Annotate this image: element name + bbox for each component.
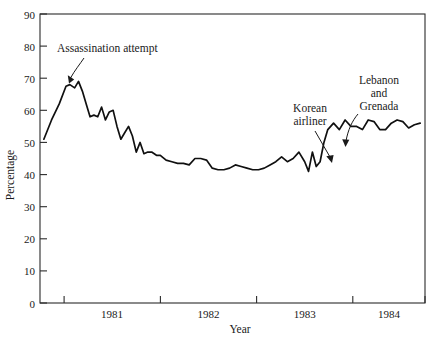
y-tick-label-40: 40: [24, 169, 36, 181]
y-tick-label-90: 90: [24, 9, 36, 21]
annotation-korean-line1: Korean: [293, 102, 327, 114]
plot-frame: [40, 14, 425, 303]
chart-figure: 90 80 70 60 50 40 30 20 10 0 1981 1982 1…: [0, 0, 438, 344]
y-axis-tick-labels: 90 80 70 60 50 40 30 20 10 0: [24, 9, 36, 310]
approval-rating-line-chart: 90 80 70 60 50 40 30 20 10 0 1981 1982 1…: [0, 0, 438, 344]
korean-airliner-arrowhead: [326, 155, 333, 163]
lebanon-grenada-arrowhead: [342, 139, 349, 147]
x-axis-title: Year: [229, 323, 250, 335]
annotation-korean-line2: airliner: [293, 115, 326, 127]
x-tick-label-1984: 1984: [378, 308, 401, 320]
x-axis-ticks: [64, 296, 425, 303]
y-tick-label-50: 50: [24, 137, 36, 149]
x-tick-label-1983: 1983: [294, 308, 317, 320]
y-tick-label-70: 70: [24, 73, 36, 85]
x-axis-tick-labels: 1981 1982 1983 1984: [101, 308, 401, 320]
annotation-lebanon-line1: Lebanon: [359, 74, 399, 86]
y-tick-label-20: 20: [24, 233, 36, 245]
y-tick-label-60: 60: [24, 105, 36, 117]
annotation-lebanon-line2: and: [371, 87, 388, 99]
y-axis-title: Percentage: [4, 150, 17, 200]
y-tick-label-30: 30: [24, 201, 36, 213]
assassination-leader-line: [71, 58, 85, 78]
annotation-lebanon-line3: Grenada: [360, 100, 399, 112]
annotation-assassination-label: Assassination attempt: [57, 42, 158, 55]
x-tick-label-1982: 1982: [198, 308, 220, 320]
approval-data-line: [44, 81, 420, 171]
annotation-assassination-attempt: Assassination attempt: [57, 42, 158, 84]
y-axis-ticks: [40, 14, 47, 303]
y-tick-label-0: 0: [30, 298, 36, 310]
annotation-lebanon-grenada: Lebanon and Grenada: [342, 74, 399, 147]
x-tick-label-1981: 1981: [101, 308, 123, 320]
y-tick-label-80: 80: [24, 41, 36, 53]
y-tick-label-10: 10: [24, 265, 36, 277]
lebanon-grenada-leader-line: [346, 114, 358, 141]
